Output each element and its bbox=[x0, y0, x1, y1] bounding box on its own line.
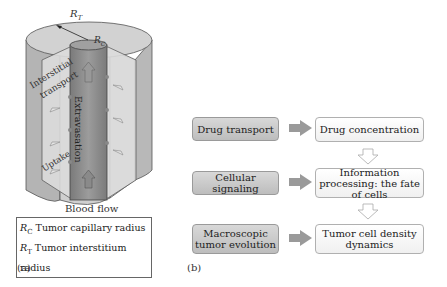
tumor-cell-density-box: Tumor cell density dynamics bbox=[315, 224, 424, 254]
rc-label: RC bbox=[94, 35, 105, 47]
legend-item: RT Tumor interstitium radius bbox=[20, 240, 148, 275]
information-processing-box: Information processing: the fate of cell… bbox=[315, 168, 424, 198]
drug-transport-box: Drug transport bbox=[192, 117, 279, 141]
extravasation-label: Extravasation bbox=[73, 96, 84, 163]
blood-flow-label: Blood flow bbox=[65, 203, 118, 214]
panel-a: RT RC Interstitial transport Extravasati… bbox=[0, 0, 180, 287]
right-arrow-icon bbox=[288, 173, 314, 191]
panel-label-a: (a) bbox=[17, 262, 31, 273]
drug-concentration-box: Drug concentration bbox=[315, 117, 424, 142]
right-arrow-icon bbox=[288, 229, 314, 247]
legend: RC Tumor capillary radius RT Tumor inter… bbox=[16, 217, 152, 278]
right-arrow-icon bbox=[288, 119, 314, 137]
down-arrow-icon bbox=[357, 203, 379, 220]
down-arrow-icon bbox=[357, 148, 379, 165]
rt-label: RT bbox=[70, 8, 82, 22]
panel-label-b: (b) bbox=[187, 262, 201, 273]
legend-item: RC Tumor capillary radius bbox=[20, 220, 148, 240]
cellular-signaling-box: Cellular signaling bbox=[192, 171, 279, 195]
tumor-cylinder-diagram bbox=[0, 0, 180, 210]
macroscopic-tumor-evolution-box: Macroscopic tumor evolution bbox=[192, 224, 279, 254]
